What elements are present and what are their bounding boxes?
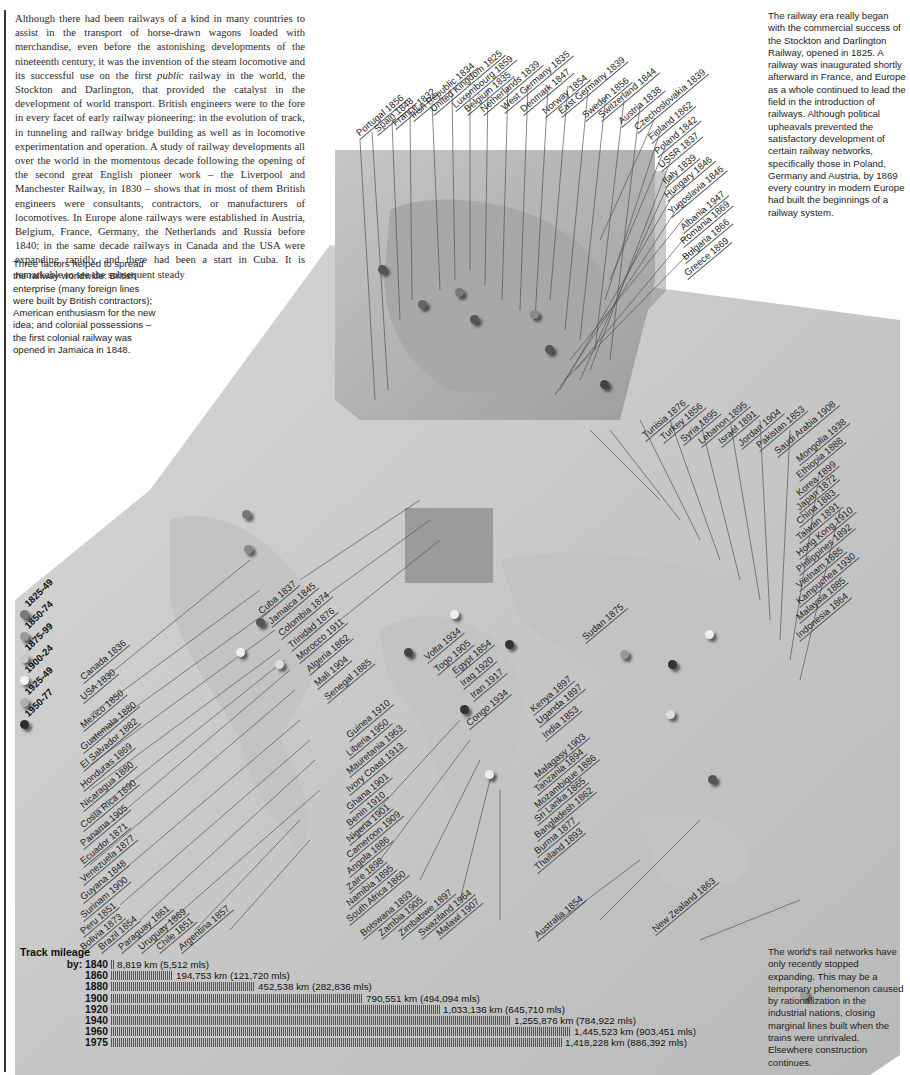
mileage-row: 19751,418,228 km (886,392 mls): [20, 1037, 696, 1048]
mileage-row: by: 18408,819 km (5,512 mls): [20, 959, 696, 970]
mileage-row: 19201,033,136 km (645,710 mls): [20, 1004, 696, 1015]
pin-icon: [378, 265, 387, 274]
mileage-value: 1,255,876 km (784,922 mls): [511, 1015, 636, 1026]
mileage-year: 1900: [20, 993, 111, 1004]
pin-icon: [275, 660, 284, 669]
mileage-year: 1960: [20, 1026, 111, 1037]
mileage-rows: by: 18408,819 km (5,512 mls)1860194,753 …: [20, 959, 696, 1049]
mileage-row: 1900790,551 km (494,094 mls): [20, 993, 696, 1004]
mileage-year: 1940: [20, 1015, 111, 1026]
track-mileage-chart: Track mileage by: 18408,819 km (5,512 ml…: [20, 946, 696, 1049]
pin-icon: [242, 510, 251, 519]
mileage-bar: [111, 1005, 440, 1014]
pin-icon: [708, 775, 717, 784]
pin-icon: [668, 660, 677, 669]
pin-icon: [485, 770, 494, 779]
pin-icon: [244, 545, 253, 554]
legend-pin-icon: [20, 720, 29, 729]
mileage-bar: [111, 1016, 511, 1025]
mileage-year: 1975: [20, 1037, 111, 1048]
mileage-year: 1920: [20, 1004, 111, 1015]
mileage-value: 1,418,228 km (886,392 mls): [562, 1037, 687, 1048]
mileage-value: 452,538 km (282,836 mls): [255, 981, 372, 992]
mileage-year: by: 1840: [20, 959, 111, 970]
mileage-row: 1860194,753 km (121,720 mls): [20, 970, 696, 981]
mileage-bar: [111, 1027, 571, 1036]
pin-icon: [545, 345, 554, 354]
mileage-bar: [111, 971, 173, 980]
mileage-value: 194,753 km (121,720 mls): [173, 970, 290, 981]
pin-icon: [455, 288, 464, 297]
pin-icon: [256, 618, 265, 627]
pin-icon: [418, 300, 427, 309]
pin-icon: [705, 630, 714, 639]
mileage-bar: [111, 1038, 562, 1047]
sidebar-bottom-note: The world's rail networks have only rece…: [768, 946, 906, 1069]
mileage-value: 1,033,136 km (645,710 mls): [440, 1004, 565, 1015]
pin-icon: [600, 380, 609, 389]
mileage-row: 19601,445,523 km (903,451 mls): [20, 1026, 696, 1037]
mileage-value: 1,445,523 km (903,451 mls): [571, 1026, 696, 1037]
pin-icon: [236, 648, 245, 657]
mileage-year: 1860: [20, 970, 111, 981]
mileage-row: 1880452,538 km (282,836 mls): [20, 981, 696, 992]
mileage-year: 1880: [20, 981, 111, 992]
pin-icon: [666, 710, 675, 719]
pin-icon: [450, 610, 459, 619]
mileage-row: 19401,255,876 km (784,922 mls): [20, 1015, 696, 1026]
sidebar-left-note: Three factors helped to spread the railw…: [13, 258, 158, 356]
mileage-value: 8,819 km (5,512 mls): [114, 959, 209, 970]
pin-icon: [460, 705, 469, 714]
mileage-bar: [111, 994, 363, 1003]
mileage-bar: [111, 982, 255, 991]
mileage-value: 790,551 km (494,094 mls): [363, 993, 480, 1004]
pin-icon: [530, 310, 539, 319]
pin-icon: [404, 648, 413, 657]
pin-icon: [620, 650, 629, 659]
pin-icon: [470, 315, 479, 324]
pin-icon: [505, 640, 514, 649]
sidebar-right-note: The railway era really began with the co…: [768, 10, 908, 219]
mileage-title: Track mileage: [20, 946, 696, 958]
